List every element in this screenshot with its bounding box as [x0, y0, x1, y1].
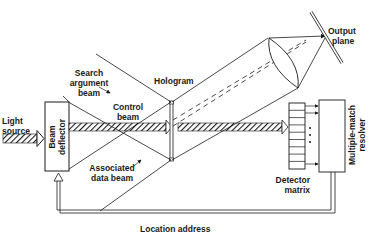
transmitted-beam-arrow: [178, 120, 288, 134]
label-light-source-line1: Light: [2, 116, 30, 126]
detector-matrix: [289, 103, 305, 169]
label-control-line1: Control: [106, 102, 150, 112]
label-beam-deflector: Beam deflector: [47, 108, 67, 166]
ellipsis-dots: [309, 127, 311, 143]
label-control-beam: Control beam: [106, 102, 150, 122]
label-search-argument-beam: Search argument beam: [64, 68, 114, 98]
label-associated-line1: Associated: [84, 163, 140, 173]
label-light-source-line2: source: [2, 126, 30, 136]
label-beam-deflector-line2: deflector: [57, 108, 67, 166]
multiple-match-resolver-box: [319, 100, 345, 172]
label-output-line2: plane: [328, 36, 356, 46]
label-hologram: Hologram: [154, 76, 194, 86]
label-control-line2: beam: [106, 112, 150, 122]
label-resolver-line1: Multiple-match: [347, 98, 357, 172]
label-detector-line1: Detector: [268, 175, 310, 185]
label-location-address: Location address: [140, 224, 210, 234]
label-detector-matrix: Detector matrix: [268, 175, 310, 195]
label-resolver-line2: resolver: [357, 98, 367, 172]
label-output-plane: Output plane: [328, 26, 356, 46]
label-beam-deflector-line1: Beam: [47, 108, 57, 166]
label-associated-line2: data beam: [84, 173, 140, 183]
label-output-line1: Output: [328, 26, 356, 36]
label-search-line1: Search: [64, 68, 114, 78]
label-associated-data-beam: Associated data beam: [84, 163, 140, 183]
label-light-source: Light source: [2, 116, 30, 136]
lens-top-to-focus: [269, 36, 325, 38]
label-detector-line2: matrix: [268, 185, 310, 195]
label-search-line3: beam: [64, 88, 114, 98]
upper-beam-to-lens: [172, 38, 268, 102]
lens-bottom-to-focus: [298, 38, 325, 88]
label-search-line2: argument: [64, 78, 114, 88]
hologram-plate: [170, 101, 174, 161]
label-multiple-match-resolver: Multiple-match resolver: [347, 98, 367, 172]
